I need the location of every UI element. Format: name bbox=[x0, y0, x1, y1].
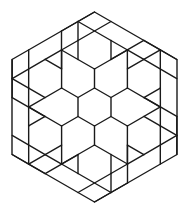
tile-edge bbox=[45, 50, 61, 60]
tile-edge bbox=[160, 50, 176, 60]
tile-edge bbox=[12, 79, 28, 89]
tile-edge bbox=[29, 116, 45, 126]
tile-edge bbox=[144, 88, 160, 98]
outer-hexagon bbox=[12, 12, 177, 202]
tile-edge bbox=[111, 183, 128, 193]
sector-5 bbox=[12, 50, 78, 117]
tile-edge bbox=[12, 155, 28, 165]
tile-edge bbox=[111, 164, 128, 174]
tile-edge bbox=[62, 164, 79, 174]
tile-edge bbox=[62, 117, 78, 127]
tile-edge bbox=[111, 41, 128, 51]
tile-edge bbox=[29, 155, 45, 165]
tile-edge bbox=[45, 145, 61, 155]
tile-edge bbox=[144, 40, 160, 50]
tile-edge bbox=[127, 155, 143, 165]
center-hexagon-outline bbox=[78, 88, 111, 126]
tile-edge bbox=[127, 145, 143, 155]
tile-edge bbox=[95, 193, 112, 203]
sector-2 bbox=[111, 97, 177, 164]
tile-edge bbox=[29, 88, 45, 98]
tile-edge bbox=[160, 126, 176, 136]
tile-edge bbox=[45, 155, 61, 165]
tile-edge bbox=[111, 117, 127, 127]
center-hexagon bbox=[78, 88, 111, 126]
star-sectors bbox=[12, 12, 177, 202]
tile-edge bbox=[62, 41, 79, 51]
outer-hexagon-outline bbox=[12, 12, 177, 202]
tile-edge bbox=[127, 59, 143, 69]
tile-edge bbox=[62, 22, 79, 32]
tile-edge bbox=[29, 164, 45, 174]
sector-0 bbox=[62, 12, 128, 88]
tile-edge bbox=[144, 50, 160, 60]
tile-edge bbox=[127, 50, 143, 60]
tile-edge bbox=[45, 59, 61, 69]
tile-edge bbox=[78, 12, 95, 22]
hexagon-tiling-figure bbox=[0, 0, 188, 214]
tile-edge bbox=[111, 88, 127, 98]
tile-edge bbox=[144, 116, 160, 126]
tile-edge bbox=[62, 88, 78, 98]
tiling-svg bbox=[0, 0, 188, 214]
sector-3 bbox=[62, 126, 128, 202]
